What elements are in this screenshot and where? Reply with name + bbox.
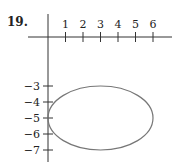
- x-tick-label: 2: [80, 18, 87, 31]
- y-tick-label: −4: [24, 96, 40, 109]
- y-tick-label: −3: [24, 80, 40, 93]
- problem-number: 19.: [7, 15, 28, 29]
- x-tick-label: 5: [132, 18, 139, 31]
- y-tick-label: −7: [24, 144, 40, 157]
- ellipse: [48, 86, 153, 150]
- x-tick-label: 6: [150, 18, 157, 31]
- x-tick-labels: 1 2 3 4 5 6: [62, 18, 157, 31]
- y-tick-labels: −3 −4 −5 −6 −7: [24, 80, 40, 157]
- x-tick-label: 3: [97, 18, 104, 31]
- figure: 19. 1 2 3 4 5 6: [0, 0, 176, 164]
- x-tick-label: 4: [115, 18, 122, 31]
- x-tick-label: 1: [62, 18, 69, 31]
- y-tick-label: −6: [24, 128, 40, 141]
- y-tick-label: −5: [24, 112, 40, 125]
